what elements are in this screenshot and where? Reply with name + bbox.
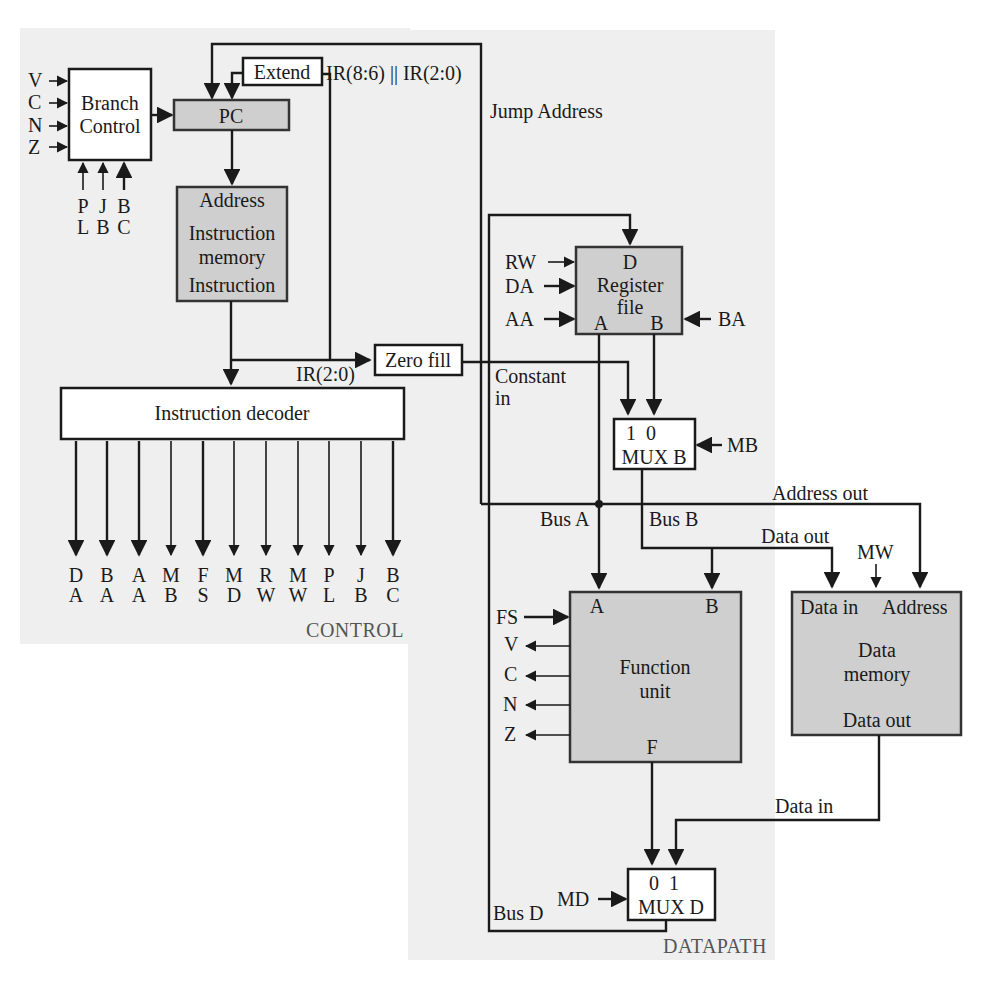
regfile-a-port: A [594,312,609,334]
jump-address-label: Jump Address [490,100,603,123]
mw-label: MW [857,541,894,563]
out-mb-bottom: B [164,584,177,606]
extend-block: Extend [243,58,322,85]
out-mb-top: M [162,564,180,586]
out-pl-bottom: L [323,584,335,606]
fu-flag-z-label: Z [504,723,516,745]
aa-label: AA [505,308,534,330]
mux-b-block: 1 0 MUX B [614,419,695,469]
rw-label: RW [505,251,536,273]
out-aa-bottom: A [132,584,147,606]
bus-b-label: Bus B [649,508,698,530]
data-memory-block: Data in Address Data memory Data out [792,592,961,735]
dmem-data-out-port: Data out [843,709,912,731]
regfile-b-port: B [650,312,663,334]
out-ba-top: B [100,564,113,586]
datapath-section-label: DATAPATH [663,935,767,957]
function-unit-block: A B Function unit F [570,592,741,762]
out-bc-bottom: C [386,584,399,606]
fu-label-2: unit [639,680,671,702]
decoder-label: Instruction decoder [155,402,310,424]
out-md-top: M [225,564,243,586]
muxb-select-labels: 1 0 [626,422,656,444]
pc-register: PC [174,100,289,130]
register-file-block: D Register file A B [576,247,682,334]
out-da-bottom: A [69,584,84,606]
imem-address-label: Address [199,189,265,211]
fu-flag-n-label: N [503,693,517,715]
bc-label-bottom: C [117,216,130,238]
ir-jump-label: IR(8:6) || IR(2:0) [326,62,462,85]
imem-label-1: Instruction [189,222,276,244]
fu-label-1: Function [619,656,690,678]
control-section-label: CONTROL [306,619,404,641]
out-jb-bottom: B [354,584,367,606]
da-label: DA [505,275,534,297]
fu-a-port: A [590,595,605,617]
extend-label: Extend [254,61,311,83]
zero-fill-label: Zero fill [385,349,452,371]
muxd-label: MUX D [638,896,704,918]
dmem-address-port: Address [882,596,948,618]
ir-low-label: IR(2:0) [296,363,355,386]
instruction-memory-block: Address Instruction memory Instruction [177,187,287,301]
jb-label-bottom: B [96,216,109,238]
imem-label-2: memory [199,246,266,269]
cpu-block-diagram: Branch Control V C N Z P L J B B C PC Ex… [0,0,989,983]
flag-v-label: V [28,69,43,91]
pl-label-bottom: L [77,216,89,238]
fu-flag-v-label: V [504,633,519,655]
muxd-select-labels: 0 1 [649,872,679,894]
fs-label: FS [496,606,518,628]
instruction-decoder-block: Instruction decoder [61,388,404,439]
bus-a-label: Bus A [540,508,590,530]
jb-label-top: J [99,195,107,217]
out-rw-bottom: W [257,584,276,606]
out-jb-top: J [357,564,365,586]
dmem-data-in-port: Data in [800,596,858,618]
out-aa-top: A [132,564,147,586]
out-mw-top: M [289,564,307,586]
out-ba-bottom: A [100,584,115,606]
muxb-label: MUX B [621,446,686,468]
flag-c-label: C [28,91,41,113]
mb-label: MB [727,434,758,456]
out-fs-top: F [197,564,208,586]
imem-instruction-label: Instruction [189,274,276,296]
bus-d-label: Bus D [493,902,544,924]
regfile-label-2: file [617,296,644,318]
md-label: MD [557,888,589,910]
constant-in-label-1: Constant [495,365,567,387]
dmem-label-2: memory [844,663,911,686]
flag-z-label: Z [28,136,40,158]
branch-control-block: Branch Control [69,69,151,160]
regfile-label-1: Register [597,274,664,297]
fu-flag-c-label: C [504,663,517,685]
branch-control-label-1: Branch [81,92,139,114]
out-bc-top: B [386,564,399,586]
out-rw-top: R [259,564,273,586]
data-out-label: Data out [761,525,830,547]
data-in-label: Data in [775,795,833,817]
out-mw-bottom: W [289,584,308,606]
pc-label: PC [219,105,243,127]
ba-label: BA [718,308,746,330]
fu-b-port: B [705,595,718,617]
dmem-label-1: Data [858,639,896,661]
zero-fill-block: Zero fill [375,345,462,375]
flag-n-label: N [28,114,42,136]
mux-d-block: 0 1 MUX D [628,869,715,920]
regfile-d-port: D [623,251,637,273]
branch-control-label-2: Control [79,115,141,137]
constant-in-label-2: in [495,387,511,409]
out-da-top: D [69,564,83,586]
out-pl-top: P [323,564,334,586]
fu-f-port: F [646,736,657,758]
out-fs-bottom: S [197,584,208,606]
bc-label-top: B [117,195,130,217]
pl-label-top: P [77,195,88,217]
address-out-label: Address out [772,482,869,504]
out-md-bottom: D [227,584,241,606]
